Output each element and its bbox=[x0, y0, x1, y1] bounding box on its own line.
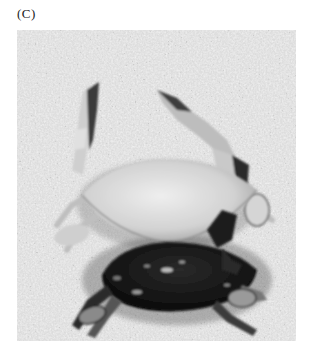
crab-photograph bbox=[17, 30, 296, 341]
panel-label: (C) bbox=[17, 6, 36, 22]
crab-illustration bbox=[17, 30, 296, 341]
